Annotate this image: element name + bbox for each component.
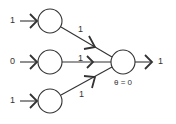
- input-node-1: [38, 9, 62, 33]
- input-node-3: [38, 89, 62, 113]
- input-arrow-1: [20, 14, 37, 28]
- input-value-3: 1: [10, 96, 15, 105]
- input-arrow-3: [20, 94, 37, 108]
- input-arrow-2: [20, 55, 37, 69]
- weight-label-1: 1: [78, 25, 83, 34]
- weight-label-2: 1: [78, 54, 83, 63]
- threshold-label: θ = 0: [114, 79, 132, 87]
- diagram-graphics: [0, 0, 176, 124]
- connection-3: [61, 67, 112, 95]
- output-arrow: [135, 55, 152, 69]
- neuron-diagram: 1 0 1 1 1 1 1 θ = 0: [0, 0, 176, 124]
- input-node-2: [38, 50, 62, 74]
- weight-label-3: 1: [79, 90, 84, 99]
- input-value-2: 0: [10, 57, 15, 66]
- connection-1: [61, 27, 112, 57]
- connection-2: [62, 56, 111, 68]
- output-value: 1: [158, 57, 163, 66]
- input-value-1: 1: [10, 16, 15, 25]
- output-node: [111, 50, 135, 74]
